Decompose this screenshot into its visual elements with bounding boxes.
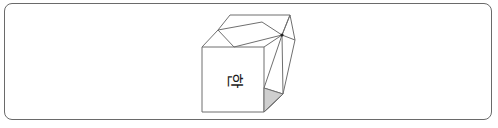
right-fold-line bbox=[282, 35, 283, 94]
right-fold-line bbox=[282, 35, 295, 40]
front-face-label: 한 bbox=[222, 66, 248, 96]
fold-line bbox=[218, 22, 282, 35]
vertex-dot bbox=[280, 33, 283, 36]
shaded-face-overlay bbox=[264, 88, 283, 112]
right-face-edge bbox=[282, 15, 290, 35]
fold-line bbox=[218, 30, 234, 47]
right-fold-line bbox=[264, 35, 282, 88]
fold-line bbox=[234, 35, 282, 47]
cube-diagram bbox=[0, 0, 498, 128]
top-left-edge bbox=[202, 15, 230, 47]
